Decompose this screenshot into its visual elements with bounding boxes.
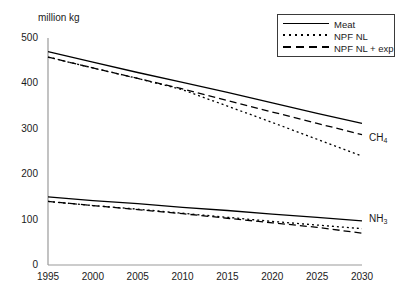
x-tick-label: 2000 bbox=[73, 271, 113, 282]
y-tick-label: 100 bbox=[6, 214, 38, 225]
x-tick-label: 2025 bbox=[297, 271, 337, 282]
legend-label-npf-nl-exp: NPF NL + exp bbox=[334, 43, 394, 54]
nh3-label-subscript: 3 bbox=[383, 218, 387, 225]
x-tick-label: 2005 bbox=[118, 271, 158, 282]
legend-item-meat[interactable]: Meat bbox=[283, 18, 355, 30]
axes bbox=[48, 38, 362, 265]
y-tick-label: 0 bbox=[6, 259, 38, 270]
legend-swatch-dashed-icon bbox=[283, 43, 329, 53]
x-tick-label: 2015 bbox=[207, 271, 247, 282]
x-tick-label: 2010 bbox=[163, 271, 203, 282]
x-tick-label: 1995 bbox=[28, 271, 68, 282]
legend: Meat NPF NL NPF NL + exp bbox=[277, 14, 395, 57]
x-tick-label: 2030 bbox=[342, 271, 382, 282]
legend-item-npf-nl-exp[interactable]: NPF NL + exp bbox=[283, 42, 394, 54]
legend-swatch-solid-icon bbox=[283, 19, 329, 29]
nh3-label-text: NH bbox=[369, 213, 383, 224]
y-tick-label: 200 bbox=[6, 168, 38, 179]
chart-figure: million kg 0100200300400500 199520002005… bbox=[0, 0, 406, 292]
series-annotation-nh3: NH3 bbox=[369, 213, 387, 224]
legend-item-npf-nl[interactable]: NPF NL bbox=[283, 30, 368, 42]
ch4-label-subscript: 4 bbox=[383, 137, 387, 144]
y-tick-label: 300 bbox=[6, 123, 38, 134]
series-lines bbox=[48, 52, 362, 234]
series-annotation-ch4: CH4 bbox=[369, 132, 387, 143]
y-tick-label: 400 bbox=[6, 77, 38, 88]
series-line-ch4-npf-nl-exp bbox=[48, 57, 362, 135]
series-line-nh3-meat bbox=[48, 197, 362, 221]
legend-label-npf-nl: NPF NL bbox=[334, 31, 368, 42]
x-tick-label: 2020 bbox=[252, 271, 292, 282]
legend-swatch-dotted-icon bbox=[283, 31, 329, 41]
series-line-ch4-npf-nl bbox=[48, 57, 362, 156]
y-tick-label: 500 bbox=[6, 32, 38, 43]
legend-label-meat: Meat bbox=[334, 19, 355, 30]
series-line-ch4-meat bbox=[48, 52, 362, 124]
ch4-label-text: CH bbox=[369, 132, 383, 143]
